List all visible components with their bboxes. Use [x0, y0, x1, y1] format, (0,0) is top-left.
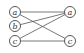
node-L_c: c — [10, 36, 21, 47]
node-label: a — [68, 8, 73, 17]
node-L_b: b — [10, 21, 21, 32]
node-label: c — [68, 37, 73, 46]
node-label: c — [13, 37, 18, 46]
node-label: a — [13, 8, 18, 17]
node-L_a: a — [10, 7, 21, 18]
node-R_a: a — [65, 7, 76, 18]
edge-L_b-R_a — [20, 13, 64, 24]
edges — [20, 12, 65, 41]
bipartite-graph: abcac — [0, 0, 84, 53]
node-R_c: c — [65, 36, 76, 47]
node-label: b — [12, 22, 17, 31]
